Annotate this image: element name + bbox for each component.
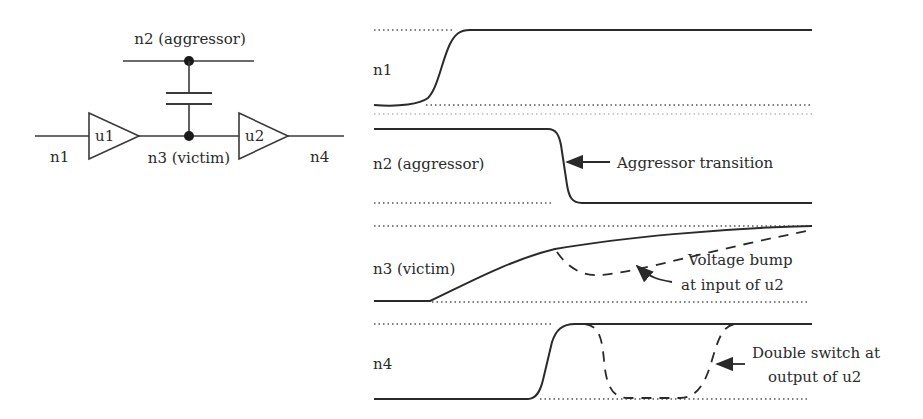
n1-label: n1 — [50, 148, 69, 166]
waveform-n4: n4 Double switch at output of u2 — [373, 324, 880, 399]
n1-trace — [374, 30, 812, 106]
double-switch-annotation-line2: output of u2 — [768, 368, 861, 386]
waveform-n1: n1 — [373, 30, 812, 106]
waveform-n2: n2 (aggressor) Aggressor transition — [373, 114, 812, 203]
n4-double-switch-trace — [585, 324, 735, 398]
buffer-u1-label: u1 — [95, 127, 114, 145]
bump-annotation-line2: at input of u2 — [681, 276, 784, 294]
schematic: n2 (aggressor) u1 u2 n1 n3 (victim) n4 — [35, 30, 344, 167]
aggressor-net-label: n2 (aggressor) — [134, 30, 245, 48]
bump-annotation-line1: Voltage bump — [687, 251, 793, 269]
victim-node-dot — [184, 131, 194, 141]
n4-label: n4 — [310, 148, 329, 166]
buffer-u2-label: u2 — [245, 127, 264, 145]
n4-wave-label: n4 — [373, 355, 392, 373]
crosstalk-diagram: n2 (aggressor) u1 u2 n1 n3 (victim) n4 n… — [0, 0, 923, 419]
n2-wave-label: n2 (aggressor) — [373, 155, 484, 173]
aggressor-annotation: Aggressor transition — [616, 154, 774, 172]
n3-wave-label: n3 (victim) — [373, 260, 455, 278]
n4-trace — [374, 324, 812, 399]
n1-wave-label: n1 — [373, 61, 392, 79]
waveform-n3: n3 (victim) Voltage bump at input of u2 — [373, 226, 812, 302]
victim-net-label: n3 (victim) — [148, 149, 230, 167]
double-switch-annotation-line1: Double switch at — [752, 344, 880, 362]
